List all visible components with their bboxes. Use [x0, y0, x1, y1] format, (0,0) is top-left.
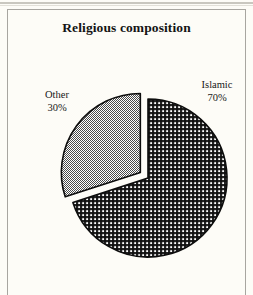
pie-label-islamic-name: Islamic: [202, 79, 233, 90]
pie-label-islamic: Islamic 70%: [186, 78, 248, 104]
pie-label-other: Other 30%: [26, 88, 88, 114]
pie-label-other-percent: 30%: [26, 101, 88, 114]
pie-label-islamic-percent: 70%: [186, 91, 248, 104]
pie-slice-group: [61, 93, 227, 257]
pie-label-other-name: Other: [45, 89, 69, 100]
